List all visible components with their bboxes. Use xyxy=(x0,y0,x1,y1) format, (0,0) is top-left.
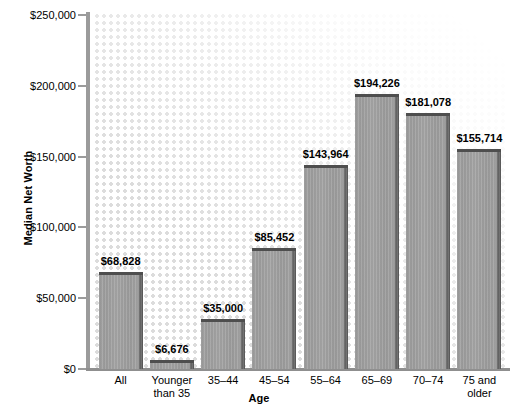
x-axis-category-label-line: 55–64 xyxy=(300,374,351,387)
median-net-worth-bar-chart: Median Net Worth $0$50,000$100,000$150,0… xyxy=(0,0,518,415)
bar-item[interactable]: $194,226 xyxy=(355,94,399,369)
bar-rect[interactable] xyxy=(406,113,450,369)
bar-rect[interactable] xyxy=(201,319,245,369)
bar-item[interactable]: $68,828 xyxy=(99,272,143,369)
bar-rect[interactable] xyxy=(304,165,348,369)
x-axis-category-label-line: 35–44 xyxy=(198,374,249,387)
bar-rect[interactable] xyxy=(355,94,399,369)
x-axis-category-label: 65–69 xyxy=(351,374,402,387)
bar-item[interactable]: $6,676 xyxy=(150,360,194,369)
x-axis-category-label-line: Younger xyxy=(146,374,197,387)
bar-item[interactable]: $181,078 xyxy=(406,113,450,369)
bar-value-label: $194,226 xyxy=(354,77,400,89)
bar-value-label: $35,000 xyxy=(203,302,243,314)
bar-item[interactable]: $143,964 xyxy=(304,165,348,369)
bar-rect[interactable] xyxy=(457,149,501,369)
x-axis-category-label-line: All xyxy=(95,374,146,387)
x-axis-category-label: 45–54 xyxy=(249,374,300,387)
bar-item[interactable]: $35,000 xyxy=(201,319,245,369)
x-axis-category-label: 70–74 xyxy=(403,374,454,387)
bar-rect[interactable] xyxy=(99,272,143,369)
x-axis-category-label: 55–64 xyxy=(300,374,351,387)
bar-item[interactable]: $155,714 xyxy=(457,149,501,369)
x-axis-category-label-line: 70–74 xyxy=(403,374,454,387)
bar-rect[interactable] xyxy=(252,248,296,369)
x-axis-title: Age xyxy=(0,392,518,404)
bar-value-label: $143,964 xyxy=(303,148,349,160)
bar-rect[interactable] xyxy=(150,360,194,369)
x-axis-category-label: All xyxy=(95,374,146,387)
x-axis-category-label-line: 45–54 xyxy=(249,374,300,387)
x-axis-category-label: 35–44 xyxy=(198,374,249,387)
bar-series: $68,828$6,676$35,000$85,452$143,964$194,… xyxy=(0,0,518,415)
bar-item[interactable]: $85,452 xyxy=(252,248,296,369)
bar-value-label: $85,452 xyxy=(254,231,294,243)
bar-value-label: $68,828 xyxy=(101,255,141,267)
bar-value-label: $155,714 xyxy=(456,132,502,144)
bar-value-label: $6,676 xyxy=(155,343,189,355)
x-axis-category-label-line: 65–69 xyxy=(351,374,402,387)
x-axis-category-label-line: 75 and xyxy=(454,374,505,387)
bar-value-label: $181,078 xyxy=(405,96,451,108)
